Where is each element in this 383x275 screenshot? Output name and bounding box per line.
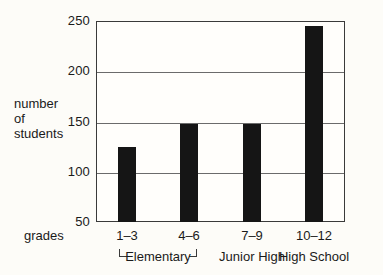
x-axis-ticks: 1–3 4–6 7–9 10–12 [96,228,345,244]
y-tick-50: 50 [46,215,90,228]
bar-chart: number of students 250 200 150 100 50 gr… [0,0,383,275]
group-label-high-school: High School [279,249,349,264]
gridline-150 [97,123,344,124]
x-tick-4-6: 4–6 [178,228,200,243]
y-tick-200: 200 [46,64,90,77]
x-tick-7-9: 7–9 [241,228,263,243]
x-axis-title: grades [24,228,64,243]
group-label-junior-high: Junior High [219,249,285,264]
x-tick-1-3: 1–3 [116,228,138,243]
group-label-elementary: Elementary [125,249,191,264]
x-tick-10-12: 10–12 [296,228,332,243]
y-tick-100: 100 [46,165,90,178]
bracket-tick-right [196,249,197,257]
y-tick-150: 150 [46,115,90,128]
gridline-200 [97,72,344,73]
y-tick-250: 250 [46,14,90,27]
group-labels: Elementary Junior High High School [96,246,345,270]
gridline-100 [97,173,344,174]
y-axis-ticks: 250 200 150 100 50 [42,21,90,222]
plot-area [96,21,345,222]
